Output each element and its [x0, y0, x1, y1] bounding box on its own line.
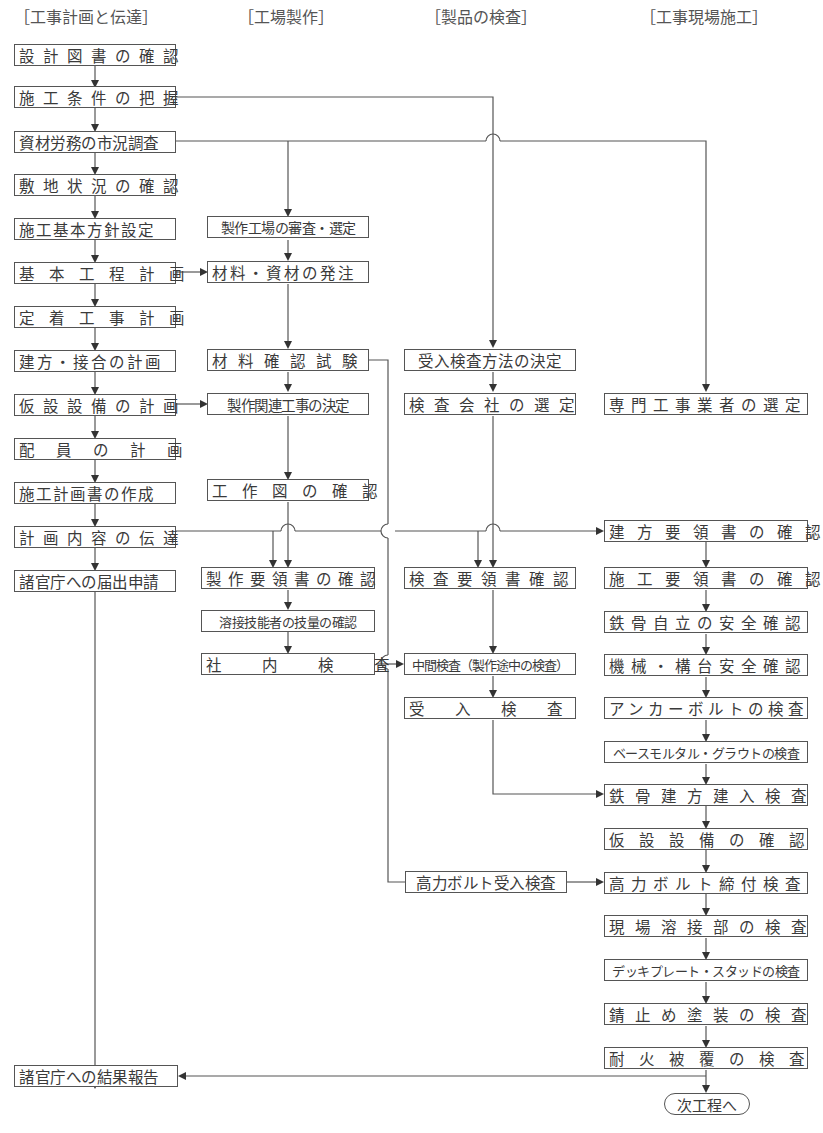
node-p2: 施工条件の把握: [14, 86, 176, 108]
node-f4: 製作関連工事の決定: [207, 393, 369, 415]
node-s1: 専門工事業者の選定: [604, 393, 808, 415]
node-label: 耐火被覆の検査: [609, 1047, 819, 1069]
node-p1: 設計図書の確認: [14, 44, 176, 66]
node-f6: 製作要領書の確認: [201, 567, 375, 589]
node-p5: 施工基本方針設定: [14, 218, 176, 240]
node-label: 現場溶接部の検査: [609, 915, 817, 937]
node-label: 工作図の確認: [212, 479, 392, 501]
node-p6: 基本工程計画: [14, 262, 176, 284]
node-label: 材料確認試験: [212, 349, 368, 371]
node-label: 受入検査: [409, 697, 593, 719]
node-label: 配員の計画: [19, 438, 204, 460]
node-i2: 検査会社の選定: [404, 393, 576, 415]
node-f7: 溶接技能者の技量の確認: [201, 610, 375, 632]
node-s3: 施工要領書の確認: [604, 567, 808, 589]
node-s2: 建方要領書の確認: [604, 520, 808, 542]
node-label: 高力ボルト受入検査: [416, 871, 556, 893]
node-p12: 計画内容の伝達: [14, 526, 176, 548]
node-label: 溶接技能者の技量の確認: [219, 612, 357, 631]
node-label: 製作要領書の確認: [206, 567, 382, 589]
node-s5: 機械・構台安全確認: [604, 654, 808, 676]
node-i5: 受入検査: [404, 697, 576, 719]
node-label: ベースモルタル・グラウトの検査: [613, 743, 800, 762]
node-label: 諸官庁への結果報告: [19, 1065, 159, 1087]
node-label: 設計図書の確認: [19, 44, 187, 66]
node-s4: 鉄骨自立の安全確認: [604, 611, 808, 633]
node-s7: ベースモルタル・グラウトの検査: [604, 741, 808, 763]
node-p3: 資材労務の市況調査: [14, 131, 176, 153]
node-s10: 高力ボルト締付検査: [604, 872, 808, 894]
node-p10: 配員の計画: [14, 438, 176, 460]
node-s9: 仮設設備の確認: [604, 828, 808, 850]
node-label: アンカーボルトの検査: [609, 697, 808, 719]
node-label: 専門工事業者の選定: [609, 393, 807, 415]
node-label: 検査要領書確認: [409, 567, 577, 589]
node-i1: 受入検査方法の決定: [404, 349, 576, 371]
node-p8: 建方・接合の計画: [14, 350, 176, 372]
node-s14: 耐火被覆の検査: [604, 1047, 808, 1069]
node-label: 施工計画書の作成: [19, 482, 155, 504]
node-label: 定着工事計画: [19, 306, 199, 328]
node-label: 製作工場の審査・選定: [221, 217, 356, 237]
node-s8: 鉄骨建方建入検査: [604, 784, 808, 806]
node-label: 中間検査（製作途中の検査）: [412, 655, 568, 674]
node-label: 機械・構台安全確認: [609, 654, 807, 676]
node-label: 鉄骨建方建入検査: [609, 784, 817, 806]
node-label: 仮設設備の計画: [19, 394, 187, 416]
node-f3: 材料確認試験: [207, 349, 369, 371]
node-s11: 現場溶接部の検査: [604, 915, 808, 937]
node-f8: 社内検査: [201, 653, 375, 675]
node-label: 基本工程計画: [19, 262, 199, 284]
node-label: 製作関連工事の決定: [227, 394, 349, 415]
node-next-step: 次工程へ: [664, 1093, 750, 1115]
node-label: 社内検査: [206, 653, 430, 675]
node-label: 施工条件の把握: [19, 86, 187, 108]
node-label: 敷地状況の確認: [19, 174, 187, 196]
node-label: 鉄骨自立の安全確認: [609, 611, 807, 633]
node-label: デッキプレート・スタッドの検査: [612, 961, 800, 980]
node-f1: 製作工場の審査・選定: [207, 216, 369, 238]
node-label: 錆止め塗装の検査: [609, 1003, 817, 1025]
node-p11: 施工計画書の作成: [14, 482, 176, 504]
node-p14: 諸官庁への結果報告: [14, 1065, 178, 1087]
node-label: 諸官庁への届出申請: [19, 570, 159, 592]
node-label: 次工程へ: [677, 1094, 737, 1115]
node-label: 施工基本方針設定: [19, 218, 155, 240]
node-p4: 敷地状況の確認: [14, 174, 176, 196]
node-f5: 工作図の確認: [207, 479, 369, 501]
node-p9: 仮設設備の計画: [14, 394, 176, 416]
node-s6: アンカーボルトの検査: [604, 697, 808, 719]
node-label: 仮設設備の確認: [609, 828, 819, 850]
node-label: 施工要領書の確認: [609, 567, 823, 589]
node-label: 材料・資材の発注: [212, 261, 356, 283]
node-s12: デッキプレート・スタッドの検査: [604, 959, 808, 981]
node-label: 資材労務の市況調査: [19, 131, 159, 153]
node-f2: 材料・資材の発注: [207, 261, 369, 283]
node-i3: 検査要領書確認: [404, 567, 576, 589]
node-i6: 高力ボルト受入検査: [405, 871, 567, 893]
node-label: 検査会社の選定: [409, 393, 584, 415]
node-p7: 定着工事計画: [14, 306, 176, 328]
node-label: 高力ボルト締付検査: [609, 872, 807, 894]
node-s13: 錆止め塗装の検査: [604, 1003, 808, 1025]
node-label: 建方要領書の確認: [609, 520, 823, 542]
node-label: 計画内容の伝達: [19, 526, 187, 548]
node-i4: 中間検査（製作途中の検査）: [404, 653, 576, 675]
node-p13: 諸官庁への届出申請: [14, 570, 176, 592]
node-label: 受入検査方法の決定: [418, 349, 562, 371]
node-label: 建方・接合の計画: [19, 350, 163, 372]
